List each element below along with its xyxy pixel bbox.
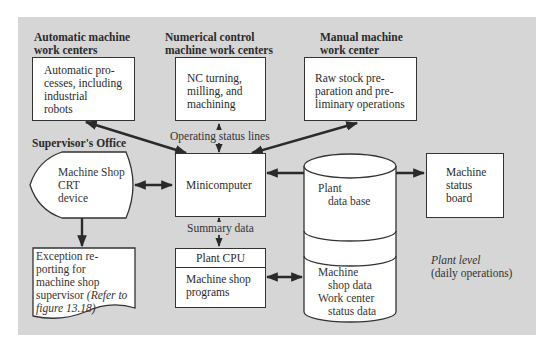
figure-reference: (Refer to xyxy=(87,289,128,301)
node-text: Plant xyxy=(318,182,370,195)
node-text: CRT xyxy=(58,179,125,192)
database-machine-shop-section: Machine shop data Work center status dat… xyxy=(318,266,376,318)
node-text: status xyxy=(446,179,486,192)
node-text: supervisor xyxy=(36,289,87,301)
node-text: device xyxy=(58,192,125,205)
node-text: robots xyxy=(44,103,122,116)
heading-line: Manual machine xyxy=(320,31,403,44)
node-text: Work center xyxy=(318,292,376,305)
node-exception-report: Exception re- porting for machine shop s… xyxy=(36,250,127,315)
node-text: status data xyxy=(318,305,376,318)
heading-line: machine work centers xyxy=(165,44,273,57)
node-text: Machine xyxy=(318,266,376,279)
heading-manual: Manual machine work center xyxy=(320,31,403,57)
heading-line: work centers xyxy=(34,44,130,57)
annotation-plant-level: Plant level (daily operations) xyxy=(431,254,512,280)
node-text: liminary operations xyxy=(315,98,405,111)
node-text: cesses, including xyxy=(44,77,122,90)
node-text: Machine shop xyxy=(186,273,251,286)
node-text: board xyxy=(446,192,486,205)
node-text: Exception re- xyxy=(36,250,127,263)
node-text: Minicomputer xyxy=(186,179,252,192)
node-text: Raw stock pre- xyxy=(315,72,405,85)
node-text: shop data xyxy=(318,279,376,292)
node-text: machining xyxy=(187,98,243,111)
node-text: programs xyxy=(186,286,251,299)
node-text: industrial xyxy=(44,90,122,103)
database-plant-section: Plant data base xyxy=(318,182,370,208)
heading-supervisor-office: Supervisor's Office xyxy=(32,137,126,150)
node-plant-cpu: Plant CPU Machine shop programs xyxy=(175,248,266,308)
node-automatic-processes: Automatic pro- cesses, including industr… xyxy=(32,57,135,121)
figure-reference: figure 13.18) xyxy=(36,302,127,315)
node-text: Machine xyxy=(446,166,486,179)
node-text: machine shop xyxy=(36,276,127,289)
heading-line: work center xyxy=(320,44,403,57)
annotation-title: Plant level xyxy=(431,254,512,267)
node-text: NC turning, xyxy=(187,72,243,85)
node-text: paration and pre- xyxy=(315,85,405,98)
node-text: Automatic pro- xyxy=(44,64,122,77)
node-machine-status-board: Machine status board xyxy=(426,153,504,218)
heading-line: Numerical control xyxy=(165,31,273,44)
plant-cpu-title: Plant CPU xyxy=(176,249,265,268)
node-manual-operations: Raw stock pre- paration and pre- liminar… xyxy=(304,57,417,121)
node-text: Machine Shop xyxy=(58,166,125,179)
node-text: milling, and xyxy=(187,85,243,98)
label-summary-data: Summary data xyxy=(185,222,256,235)
label-operating-status-lines: Operating status lines xyxy=(168,130,272,143)
node-minicomputer: Minicomputer xyxy=(175,153,266,217)
node-crt-device: Machine Shop CRT device xyxy=(58,166,125,205)
heading-nc: Numerical control machine work centers xyxy=(165,31,273,57)
node-text: data base xyxy=(318,195,370,208)
node-nc-machining: NC turning, milling, and machining xyxy=(175,57,266,121)
heading-line: Automatic machine xyxy=(34,31,130,44)
heading-automatic: Automatic machine work centers xyxy=(34,31,130,57)
node-text: porting for xyxy=(36,263,127,276)
annotation-subtitle: (daily operations) xyxy=(431,267,512,280)
